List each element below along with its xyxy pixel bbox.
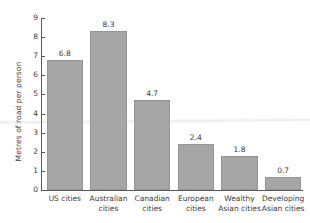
x-tick-label-line: Canadian [128, 194, 176, 204]
y-tick-label: 0 [33, 185, 38, 194]
bar-value-label: 0.7 [265, 166, 301, 175]
y-tick-label: 7 [33, 51, 38, 60]
x-tick-label: US cities [41, 194, 89, 204]
x-tick-label: Europeancities [172, 194, 220, 214]
bars-group: 6.8US cities8.3Australiancities4.7Canadi… [41, 18, 303, 190]
bar[interactable] [178, 144, 214, 190]
bar[interactable] [265, 177, 301, 190]
y-tick-label: 9 [33, 13, 38, 22]
x-tick-label: WealthyAsian cities [215, 194, 263, 214]
x-tick-label-line: US cities [41, 194, 89, 204]
y-tick-label: 2 [33, 147, 38, 156]
bar-value-label: 2.4 [178, 133, 214, 142]
x-tick-label-line: Australian [84, 194, 132, 204]
y-tick-label: 3 [33, 128, 38, 137]
x-tick-label: DevelopingAsian cities [259, 194, 307, 214]
y-axis-title: Metres of road per person [14, 42, 23, 182]
bar-group: 1.8WealthyAsian cities [221, 18, 257, 190]
bar-group: 6.8US cities [47, 18, 83, 190]
x-tick-label-line: European [172, 194, 220, 204]
y-tick-label: 6 [33, 70, 38, 79]
x-tick-label-line: cities [128, 204, 176, 214]
bar-value-label: 1.8 [221, 145, 257, 154]
bar-group: 0.7DevelopingAsian cities [265, 18, 301, 190]
x-tick-label-line: Asian cities [259, 204, 307, 214]
x-tick-label-line: Asian cities [215, 204, 263, 214]
y-tick-label: 1 [33, 166, 38, 175]
bar[interactable] [221, 156, 257, 190]
x-tick-label-line: Developing [259, 194, 307, 204]
bar-chart: Metres of road per person 0123456789 6.8… [0, 0, 310, 223]
y-tick-label: 5 [33, 89, 38, 98]
bar[interactable] [47, 60, 83, 190]
bar-group: 8.3Australiancities [90, 18, 126, 190]
bar-group: 4.7Canadiancities [134, 18, 170, 190]
bar-value-label: 6.8 [47, 49, 83, 58]
bar[interactable] [90, 31, 126, 190]
bar-value-label: 4.7 [134, 89, 170, 98]
x-axis-line [41, 190, 303, 191]
bar-group: 2.4Europeancities [178, 18, 214, 190]
x-tick-label: Canadiancities [128, 194, 176, 214]
bar[interactable] [134, 100, 170, 190]
bar-value-label: 8.3 [90, 20, 126, 29]
x-tick-label: Australiancities [84, 194, 132, 214]
x-tick-label-line: cities [172, 204, 220, 214]
x-tick-label-line: Wealthy [215, 194, 263, 204]
y-tick-label: 4 [33, 109, 38, 118]
y-tick: 0 [41, 190, 45, 191]
y-tick-label: 8 [33, 32, 38, 41]
plot-area: 0123456789 6.8US cities8.3Australianciti… [41, 18, 303, 190]
x-tick-label-line: cities [84, 204, 132, 214]
